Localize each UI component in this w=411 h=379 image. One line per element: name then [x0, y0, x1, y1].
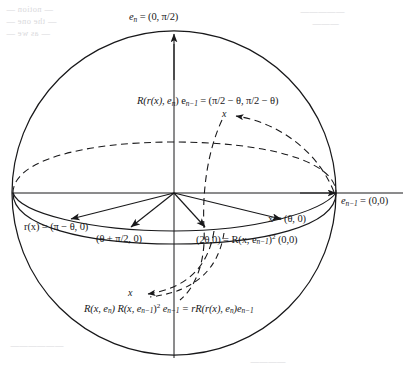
label-en-minus-1-right: en−1 = (0,0): [341, 196, 388, 207]
eq-upper-sub2: n−1: [186, 99, 198, 108]
label-en-top: en = (0, π/2): [129, 12, 178, 23]
enm1-value: = (0,0): [358, 195, 389, 206]
label-x-theta-zero: x = (θ, 0): [268, 214, 306, 225]
bottom-eq-sub5: n−1: [241, 306, 253, 315]
two-theta-sub: n−1: [256, 237, 268, 246]
eq-upper-lhs: R(r(x), e: [137, 95, 172, 106]
marker-x-lower: x: [128, 288, 132, 298]
label-theta-plus-half-pi: (θ + π/2, 0): [96, 234, 142, 245]
label-bottom-equation: R(x, en) R(x, en−1)2 en−1 = rR(r(x), en)…: [84, 303, 253, 315]
arrow-x-theta-zero: [174, 193, 281, 219]
label-two-theta-equation: (2θ,0) = R(x, en−1)2 (0,0): [196, 234, 298, 246]
bottom-eq-sub3: n−1: [167, 306, 179, 315]
label-upper-right-equation: R(r(x), en) en−1 = (π/2 − θ, π/2 − θ): [137, 96, 278, 107]
arrow-r-of-x: [71, 193, 174, 219]
bottom-eq-a: R(x, e: [84, 303, 108, 314]
two-theta-a: (2θ,0) = R(x, e: [196, 234, 256, 245]
two-theta-c: (0,0): [275, 234, 297, 245]
enm1-subscript: n−1: [346, 199, 358, 208]
eq-upper-mid: ) e: [175, 95, 185, 106]
arrow-two-theta: [174, 193, 205, 227]
label-r-of-x: r(x) = (π − θ, 0): [24, 222, 88, 233]
en-value: = (0, π/2): [137, 11, 178, 22]
meridian-dashed: [180, 120, 222, 300]
bottom-eq-b: ) R(x, e: [111, 303, 141, 314]
bottom-eq-e: = rR(r(x), e: [179, 303, 230, 314]
marker-x-upper: x: [222, 109, 226, 119]
bottom-eq-sub2: n−1: [141, 306, 153, 315]
eq-upper-rhs: = (π/2 − θ, π/2 − θ): [198, 95, 279, 106]
sphere-diagram: [0, 0, 411, 379]
